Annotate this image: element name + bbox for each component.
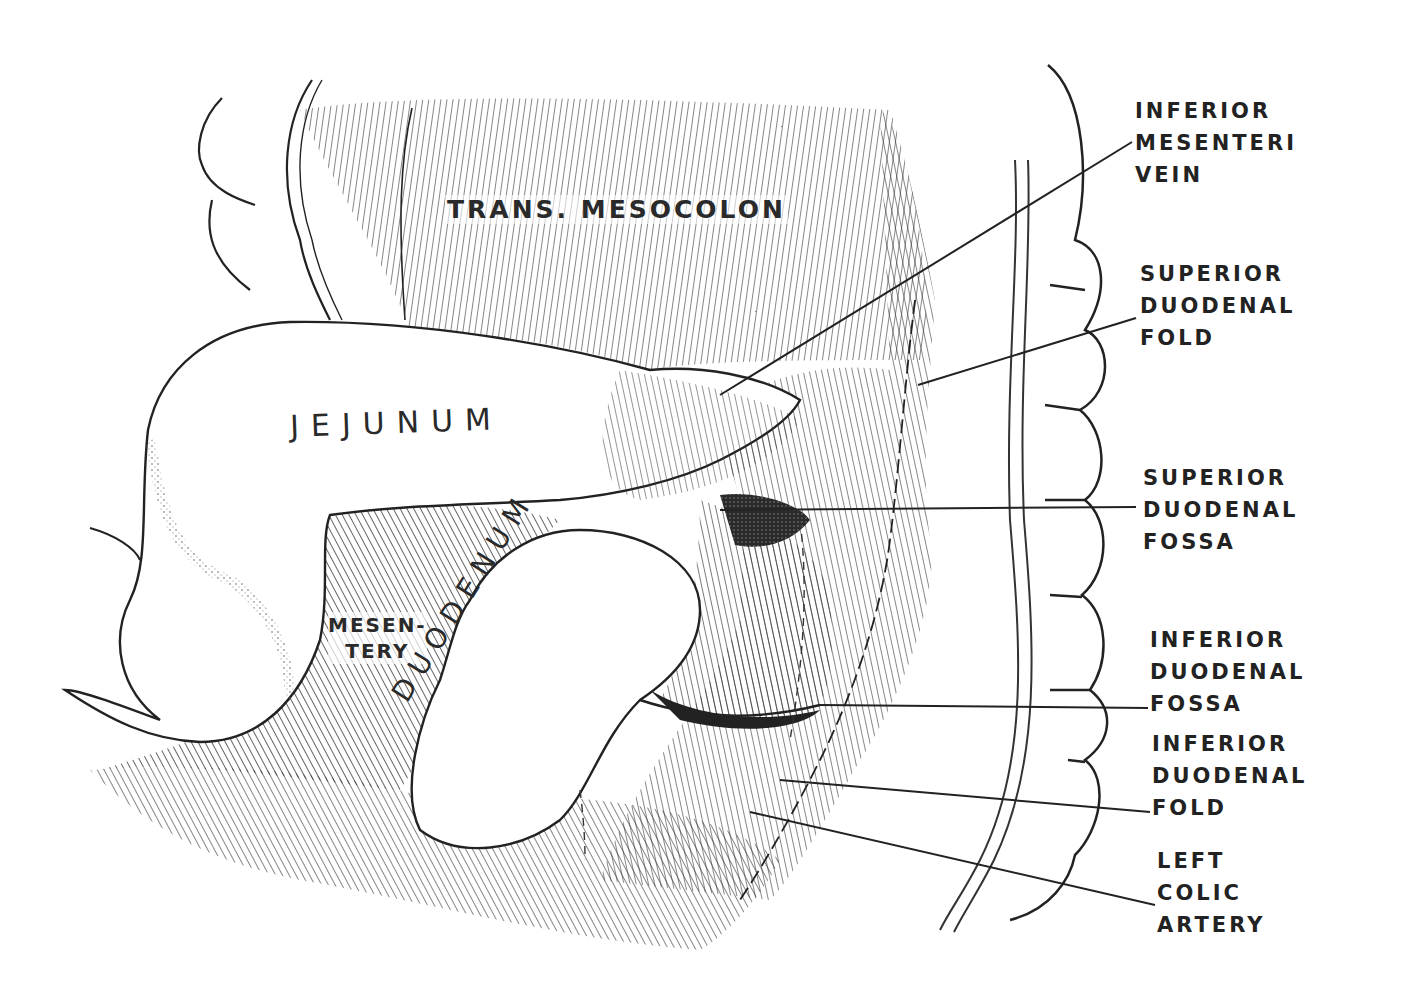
callout-superior-duodenal-fold: SUPERIOR DUODENAL FOLD (1140, 258, 1295, 354)
callout-left-colic-artery: LEFT COLIC ARTERY (1157, 845, 1265, 941)
descending-colon (1010, 65, 1107, 920)
label-jejunum: JEJUNUM (289, 401, 503, 443)
callout-inferior-mesenteric-vein: INFERIOR MESENTERI VEIN (1135, 95, 1297, 191)
marginal-vessel (940, 160, 1032, 932)
callout-superior-duodenal-fossa: SUPERIOR DUODENAL FOSSA (1143, 462, 1298, 558)
callout-inferior-duodenal-fold: INFERIOR DUODENAL FOLD (1152, 728, 1307, 824)
label-trans-mesocolon: TRANS. MESOCOLON (445, 195, 788, 224)
callout-inferior-duodenal-fossa: INFERIOR DUODENAL FOSSA (1150, 624, 1305, 720)
